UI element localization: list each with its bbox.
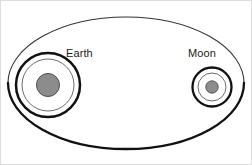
moon-label: Moon bbox=[188, 47, 216, 59]
moon-group bbox=[193, 68, 232, 107]
diagram-canvas: Earth Moon bbox=[0, 0, 252, 165]
earth-moon-orbit-diagram: Earth Moon bbox=[0, 0, 252, 165]
earth-body-disk bbox=[37, 74, 60, 97]
moon-body-disk bbox=[206, 81, 218, 93]
earth-label: Earth bbox=[66, 47, 93, 59]
earth-group bbox=[16, 53, 80, 117]
